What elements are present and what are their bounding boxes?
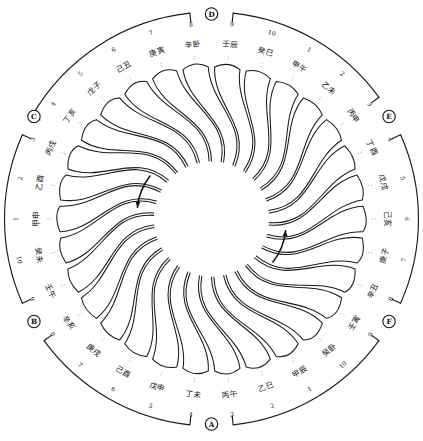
cycle-label-cjk: 乙未 [320,79,339,97]
cycle-label: 辛卧 [185,38,202,50]
label-leader [368,252,374,253]
cycle-number-text: 1 [306,385,313,393]
cycle-number: 5 [399,176,407,181]
label-group: 甲申1乙酉2丙戌3丁亥4戊子5己丑6庚寅7辛卧8壬辰9癸巳10甲午1乙未2丙申3… [12,20,411,417]
label-leader [60,284,65,286]
cycle-number-text: 3 [230,410,235,417]
marker-label: F [386,317,392,326]
cycle-label-cjk: 庚戌 [84,341,103,359]
label-leader [77,313,82,317]
label-leader [129,75,132,80]
cycle-label: 乙未 [320,79,339,97]
cycle-label: 丁亥 [60,106,77,125]
cycle-label-cjk: 壬午 [43,281,59,300]
label-leader [319,96,323,100]
cycle-number-text: 2 [269,401,275,409]
petal [125,81,209,162]
cycle-label-cjk: 己酉 [114,364,132,380]
cycle-number-text: 2 [16,176,24,181]
cycle-label: 戊子 [84,79,103,97]
cycle-label: 癸巳 [257,44,275,58]
label-leader [49,252,55,253]
cycle-number-text: 5 [148,401,154,409]
cycle-number: 2 [339,69,347,77]
cycle-label-cjk: 癸巳 [257,44,275,58]
cycle-number: 8 [189,20,194,27]
marker-label: D [208,10,214,19]
cycle-label: 壬寅 [345,313,362,332]
label-leader [160,371,162,377]
label-leader [292,358,295,363]
cycle-number-text: 10 [267,28,277,37]
cycle-label-cjk: 戊申 [148,379,166,393]
cycle-number-text: 6 [110,45,117,53]
cycle-number-text: 5 [77,69,85,77]
cycle-label-cjk: 戊戌 [377,174,390,192]
petal [256,237,363,268]
bracket-group [5,13,419,425]
label-leader [194,378,195,384]
petal [237,266,341,318]
cycle-number: 10 [16,255,24,264]
cycle-number-text: 4 [387,136,395,143]
cycle-number: 5 [77,69,85,77]
label-leader [60,151,65,153]
cycle-number: 7 [399,257,407,262]
cycle-label: 丙午 [221,388,238,400]
cycle-label-cjk: 戊子 [84,79,103,97]
cycle-label: 丙申 [345,106,362,125]
cycle-label-cjk: 己亥 [383,211,393,227]
cycle-label: 辛丑 [364,281,380,300]
cycle-label: 甲申 [31,211,41,227]
cycle-number-text: 1 [306,45,313,53]
cycle-label-cjk: 丙申 [345,106,362,125]
cycle-number-text: 7 [148,29,154,37]
cycle-number-text: 6 [404,217,411,221]
cycle-label-cjk: 丙戌 [43,138,59,157]
cycle-label-cjk: 癸未 [33,247,46,265]
cycle-number-text: 6 [110,385,117,393]
cycle-number: 10 [337,359,348,369]
arrow-upper-right-head [135,202,141,208]
label-leader [49,184,55,185]
marker-label: A [208,420,215,429]
marker-b: B [28,315,40,327]
cycle-label: 壬午 [43,281,59,300]
cycle-number: 5 [148,401,154,409]
bracket-arc-6 [44,335,191,424]
cycle-number-text: 4 [189,410,194,417]
petal [81,227,156,318]
cycle-label: 丁酉 [364,138,379,156]
arrow-lower-left-head [282,230,288,236]
cycle-label: 己丑 [115,59,133,75]
petal [81,120,185,172]
cycle-label-cjk: 辛卧 [185,38,202,50]
cycle-number: 10 [267,28,277,37]
petal [255,81,299,187]
cycle-label-cjk: 丁酉 [364,138,379,156]
diagram-canvas: 甲申1乙酉2丙戌3丁亥4戊子5己丑6庚寅7辛卧8壬辰9癸巳10甲午1乙未2丙申3… [0,0,423,441]
cycle-label: 庚子 [377,247,390,265]
cycle-label: 甲辰 [291,364,309,380]
label-leader [341,121,346,125]
cycle-number: 1 [12,217,19,221]
cycle-label-cjk: 己丑 [115,59,133,75]
cycle-label-cjk: 辛丑 [364,281,380,300]
cycle-number: 6 [110,385,117,393]
bracket-arc-5 [232,335,379,424]
petal [125,250,169,356]
cycle-number: 6 [110,45,117,53]
label-leader [368,184,374,185]
cycle-label: 癸卧 [320,341,339,359]
label-leader [292,75,295,80]
marker-a: A [205,418,217,430]
label-leader [77,121,82,125]
label-leader [261,61,263,67]
cycle-number: 4 [189,410,194,417]
petal [263,206,366,252]
cycle-number: 2 [16,176,24,181]
label-leader [194,54,195,60]
cycle-number: 2 [269,401,275,409]
cycle-label: 己亥 [383,211,393,227]
cycle-number-text: 10 [16,255,24,264]
